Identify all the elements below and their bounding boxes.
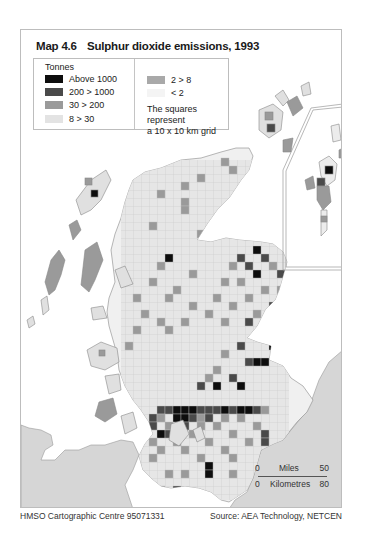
legend-unit: Tonnes bbox=[45, 62, 74, 72]
shetland-islands bbox=[305, 124, 342, 236]
scale-km-label: Kilometres bbox=[270, 479, 310, 489]
legend-swatch bbox=[147, 76, 165, 84]
footer-source: Source: AEA Technology, NETCEN bbox=[210, 511, 342, 521]
legend-label: 2 > 8 bbox=[171, 75, 191, 85]
legend-item-200-1000: 200 > 1000 bbox=[45, 87, 114, 97]
legend-swatch bbox=[45, 101, 63, 109]
legend-swatch bbox=[45, 88, 63, 96]
legend-swatch bbox=[45, 115, 63, 123]
legend-label: Above 1000 bbox=[69, 74, 117, 84]
legend-item-30-200: 30 > 200 bbox=[45, 100, 104, 110]
legend-swatch bbox=[45, 75, 63, 83]
footer-credit: HMSO Cartographic Centre 95071331 bbox=[20, 511, 165, 521]
legend-label: < 2 bbox=[171, 88, 184, 98]
scale-line bbox=[258, 476, 327, 477]
legend-label: 30 > 200 bbox=[69, 100, 104, 110]
legend-swatch bbox=[147, 89, 165, 97]
map-title: Map 4.6 Sulphur dioxide emissions, 1993 bbox=[36, 40, 259, 52]
scale-bar: 0 Miles 50 0 Kilometres 80 bbox=[255, 461, 329, 491]
legend-item-8-30: 8 > 30 bbox=[45, 114, 94, 124]
legend-divider bbox=[134, 59, 135, 129]
map-title-text: Sulphur dioxide emissions, 1993 bbox=[87, 40, 259, 52]
legend-label: 8 > 30 bbox=[69, 114, 94, 124]
legend-item-above-1000: Above 1000 bbox=[45, 74, 117, 84]
legend-item-below-2: < 2 bbox=[147, 88, 184, 98]
scale-miles-label: Miles bbox=[279, 463, 299, 473]
orkney-islands bbox=[259, 82, 311, 152]
northern-ireland-landmass bbox=[21, 425, 139, 508]
legend-grid-note: The squares represent a 10 x 10 km grid bbox=[147, 104, 228, 137]
legend-item-2-8: 2 > 8 bbox=[147, 75, 191, 85]
map-frame: Map 4.6 Sulphur dioxide emissions, 1993 … bbox=[20, 29, 342, 508]
legend: Tonnes Above 1000 200 > 1000 30 > 200 8 … bbox=[33, 58, 229, 130]
map-number: Map 4.6 bbox=[36, 40, 84, 52]
legend-label: 200 > 1000 bbox=[69, 87, 114, 97]
